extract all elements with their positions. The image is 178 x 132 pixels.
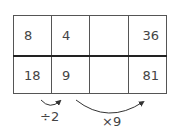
multiply-arrow-icon [76, 100, 143, 113]
divide-arrow-icon [41, 100, 60, 105]
operation-arrows [0, 0, 178, 132]
divide-label: ÷2 [40, 109, 59, 124]
multiply-label: ×9 [102, 114, 121, 129]
